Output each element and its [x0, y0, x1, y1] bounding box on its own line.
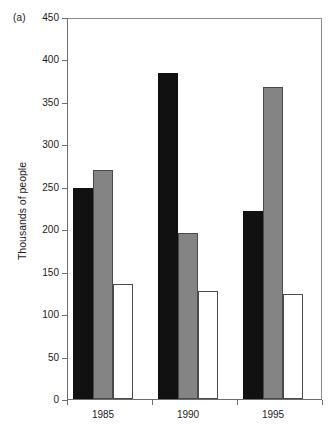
y-axis-title: Thousands of people — [16, 131, 28, 291]
axis-frame-top — [67, 18, 322, 19]
y-tick-label: 150 — [42, 266, 59, 279]
y-tick-label: 300 — [42, 138, 59, 151]
plot-area: 050100150200250300350400450 — [67, 18, 322, 400]
y-tick-label: 250 — [42, 181, 59, 194]
bar-1985-series-2 — [93, 170, 113, 399]
y-tick-label: 450 — [42, 11, 59, 24]
y-tick-150: 150 — [21, 273, 67, 274]
y-tick-250: 250 — [21, 188, 67, 189]
y-tick-mark — [62, 358, 67, 359]
bar-1985-series-3 — [113, 284, 133, 399]
y-tick-label: 0 — [53, 393, 59, 406]
y-tick-200: 200 — [21, 230, 67, 231]
y-tick-0: 0 — [21, 400, 67, 401]
y-tick-mark — [62, 103, 67, 104]
x-tick-mark — [237, 400, 238, 405]
bar-1995-series-3 — [283, 294, 303, 399]
x-tick-label-1985: 1985 — [73, 409, 133, 420]
y-tick-label: 350 — [42, 96, 59, 109]
y-axis-line — [67, 18, 68, 400]
y-tick-350: 350 — [21, 103, 67, 104]
y-tick-400: 400 — [21, 60, 67, 61]
y-tick-label: 400 — [42, 53, 59, 66]
bar-1995-series-1 — [243, 211, 263, 399]
y-tick-label: 50 — [48, 351, 59, 364]
bar-1995-series-2 — [263, 87, 283, 399]
x-tick-mark — [152, 400, 153, 405]
y-tick-450: 450 — [21, 18, 67, 19]
y-tick-mark — [62, 315, 67, 316]
axis-frame-right — [321, 18, 322, 400]
bar-1985-series-1 — [73, 188, 93, 399]
y-tick-300: 300 — [21, 145, 67, 146]
x-axis-line — [67, 399, 322, 400]
y-tick-mark — [62, 188, 67, 189]
x-tick-mark — [67, 400, 68, 405]
figure-panel-a: (a) Thousands of people 0501001502002503… — [0, 0, 336, 437]
y-tick-100: 100 — [21, 315, 67, 316]
y-tick-50: 50 — [21, 358, 67, 359]
y-tick-mark — [62, 273, 67, 274]
y-tick-mark — [62, 60, 67, 61]
bar-1990-series-1 — [158, 73, 178, 399]
y-tick-mark — [62, 18, 67, 19]
x-tick-label-1995: 1995 — [243, 409, 303, 420]
y-tick-mark — [62, 230, 67, 231]
bar-1990-series-2 — [178, 233, 198, 399]
y-tick-label: 200 — [42, 223, 59, 236]
x-tick-label-1990: 1990 — [158, 409, 218, 420]
y-tick-mark — [62, 145, 67, 146]
x-tick-mark — [322, 400, 323, 405]
y-tick-label: 100 — [42, 308, 59, 321]
bar-1990-series-3 — [198, 291, 218, 399]
